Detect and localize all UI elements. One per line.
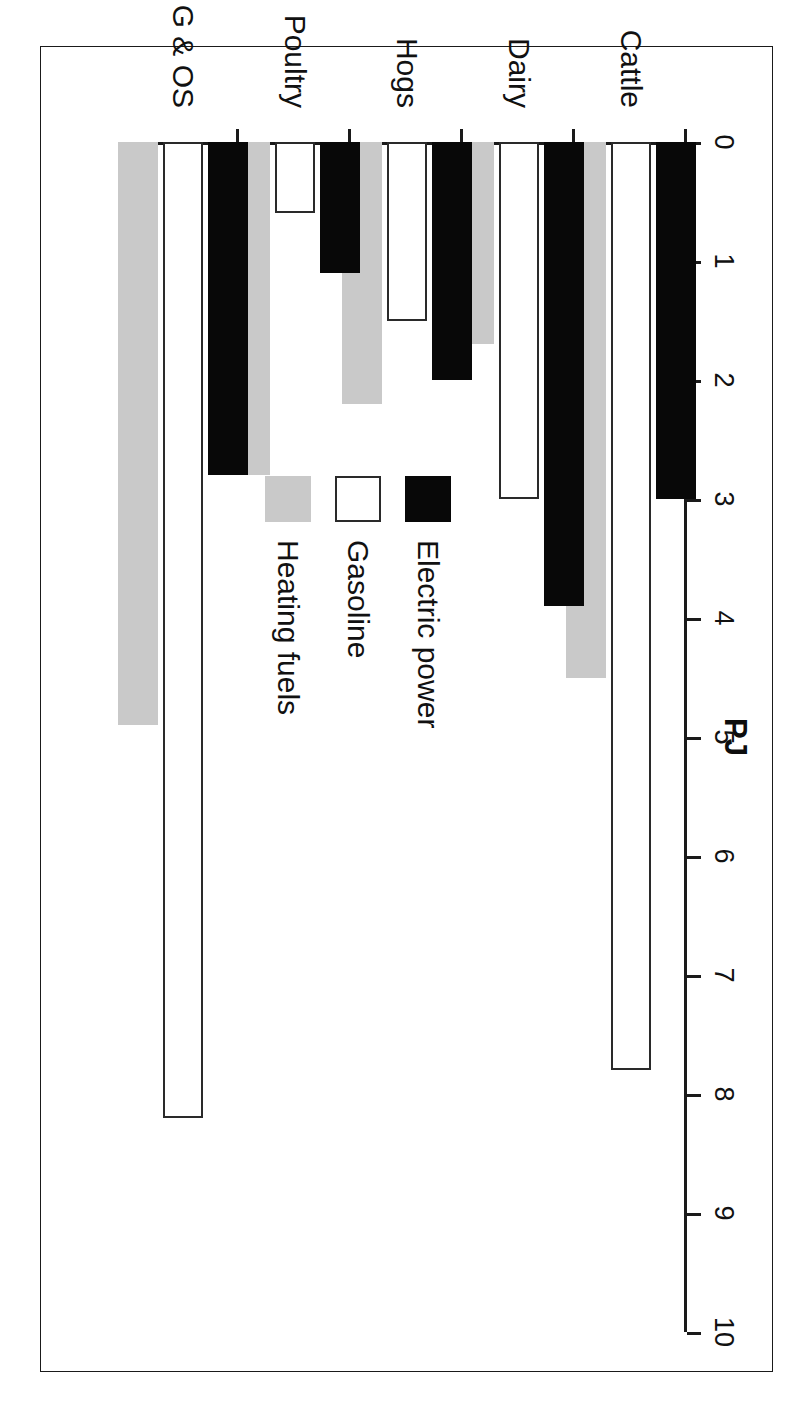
- category-label: Poultry: [278, 15, 312, 108]
- bar: [118, 142, 158, 725]
- bar: [656, 142, 696, 499]
- category-tick: [684, 129, 687, 142]
- legend-label: Heating fuels: [271, 540, 305, 715]
- category-tick: [460, 129, 463, 142]
- legend-item: Electric power: [405, 476, 451, 728]
- category-tick: [348, 129, 351, 142]
- value-tick: [687, 618, 701, 621]
- bar: [163, 142, 203, 1118]
- value-tick-label: 10: [708, 1317, 739, 1347]
- value-tick-label: 3: [708, 491, 739, 506]
- bar: [544, 142, 584, 606]
- bar: [320, 142, 360, 273]
- value-tick: [687, 856, 701, 859]
- value-tick: [687, 1332, 701, 1335]
- bar: [208, 142, 248, 475]
- legend-swatch-heating: [265, 476, 311, 522]
- legend-label: Electric power: [411, 540, 445, 728]
- value-tick: [687, 975, 701, 978]
- bar: [275, 142, 315, 213]
- legend: Electric powerGasolineHeating fuels: [241, 476, 451, 728]
- value-tick-label: 5: [708, 729, 739, 744]
- bar-chart: PJ 012345678910 CattleDairyHogsPoultryG …: [40, 46, 773, 1372]
- bar: [432, 142, 472, 380]
- value-tick-label: 4: [708, 610, 739, 625]
- category-label: Dairy: [502, 38, 536, 108]
- value-tick: [687, 1094, 701, 1097]
- category-label: Cattle: [614, 30, 648, 108]
- legend-swatch-electric: [405, 476, 451, 522]
- value-tick-label: 2: [708, 372, 739, 387]
- category-label: G & OS: [166, 5, 200, 108]
- value-tick-label: 1: [708, 253, 739, 268]
- legend-label: Gasoline: [341, 540, 375, 658]
- category-tick: [236, 129, 239, 142]
- chart-rotation-wrapper: PJ 012345678910 CattleDairyHogsPoultryG …: [40, 46, 773, 1372]
- legend-item: Gasoline: [335, 476, 381, 728]
- bar: [499, 142, 539, 499]
- bar: [611, 142, 651, 1070]
- plot-area: 012345678910 CattleDairyHogsPoultryG & O…: [127, 142, 687, 1332]
- value-tick: [687, 499, 701, 502]
- value-tick: [687, 1213, 701, 1216]
- chart-rotator: PJ 012345678910 CattleDairyHogsPoultryG …: [40, 46, 773, 1372]
- value-tick-label: 8: [708, 1086, 739, 1101]
- bar: [387, 142, 427, 321]
- legend-swatch-gasoline: [335, 476, 381, 522]
- category-tick: [572, 129, 575, 142]
- value-tick-label: 6: [708, 848, 739, 863]
- value-tick-label: 0: [708, 134, 739, 149]
- value-tick: [687, 737, 701, 740]
- legend-item: Heating fuels: [265, 476, 311, 728]
- value-tick-label: 7: [708, 967, 739, 982]
- value-tick-label: 9: [708, 1205, 739, 1220]
- category-label: Hogs: [390, 38, 424, 108]
